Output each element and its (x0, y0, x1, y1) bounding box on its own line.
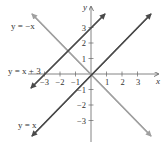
y-tick-label: 2 (82, 38, 86, 48)
y-tick-label: −3 (77, 116, 86, 126)
label-y-equals-neg-x: y = −x (11, 21, 35, 31)
x-axis-label: x (155, 76, 160, 86)
chart: −3 −2 −1 1 2 3 3 2 1 −1 −2 −3 y x y = −x… (0, 0, 163, 148)
y-tick-label: 3 (82, 23, 86, 33)
y-tick-label: −1 (77, 85, 86, 95)
x-tick-label: −2 (55, 77, 64, 87)
x-tick-label: −3 (40, 77, 49, 87)
y-tick-label: −2 (77, 100, 86, 110)
y-axis-label: y (82, 2, 87, 12)
x-tick-label: 2 (120, 77, 124, 87)
x-tick-label: 1 (105, 77, 109, 87)
label-y-equals-x: y = x (18, 120, 37, 130)
label-y-equals-x-plus-3: y = x + 3 (8, 66, 41, 76)
coordinate-plane: −3 −2 −1 1 2 3 3 2 1 −1 −2 −3 y x y = −x… (0, 0, 163, 148)
x-tick-label: 3 (136, 77, 140, 87)
y-tick-label: 1 (82, 54, 86, 64)
